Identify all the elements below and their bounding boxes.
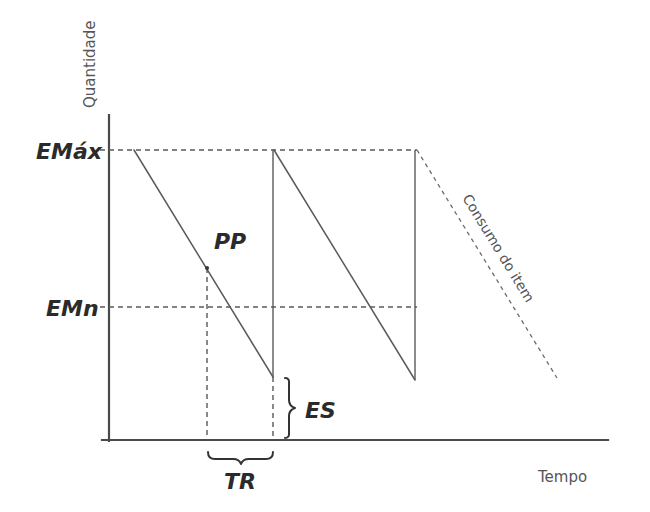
- emin-label: EMn: [46, 296, 99, 321]
- es-brace: [285, 378, 295, 438]
- es-label: ES: [305, 398, 336, 423]
- y-axis-label: Quantidade: [81, 20, 99, 108]
- consumption-descent-1: [134, 150, 273, 377]
- tr-brace: [208, 452, 273, 464]
- emax-label: EMáx: [36, 139, 103, 164]
- pp-label: PP: [214, 229, 246, 254]
- consumption-descent-2: [274, 150, 415, 380]
- diagram-canvas: EMáx EMn PP ES TR Quantidade Tempo Consu…: [0, 0, 650, 512]
- pp-point-marker: [205, 266, 209, 270]
- consumo-do-item-trend-line: [417, 150, 557, 378]
- consumo-do-item-label: Consumo do item: [459, 191, 537, 305]
- x-axis-label: Tempo: [537, 468, 587, 486]
- inventory-sawtooth-diagram: EMáx EMn PP ES TR Quantidade Tempo Consu…: [0, 0, 650, 512]
- tr-label: TR: [224, 469, 256, 494]
